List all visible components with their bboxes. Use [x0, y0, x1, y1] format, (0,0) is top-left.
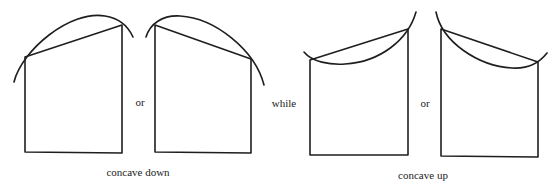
figure-concave-up-decreasing — [436, 12, 547, 157]
trapezoid-outline — [155, 25, 251, 153]
figure-concave-down-decreasing — [146, 16, 264, 153]
figure-concave-down-increasing — [14, 15, 133, 153]
connector-while: while — [272, 97, 297, 109]
trapezoid-outline — [310, 29, 408, 155]
concavity-diagram: or while or concave down concave up — [0, 0, 555, 192]
concave-down-arc — [146, 16, 264, 85]
trapezoid-outline — [25, 25, 122, 153]
connector-or-1: or — [135, 96, 145, 108]
caption-concave-down: concave down — [106, 166, 170, 178]
concave-down-arc — [14, 15, 133, 82]
figure-concave-up-increasing — [304, 12, 416, 155]
caption-concave-up: concave up — [398, 169, 448, 181]
connector-or-2: or — [420, 97, 430, 109]
trapezoid-outline — [441, 29, 538, 157]
